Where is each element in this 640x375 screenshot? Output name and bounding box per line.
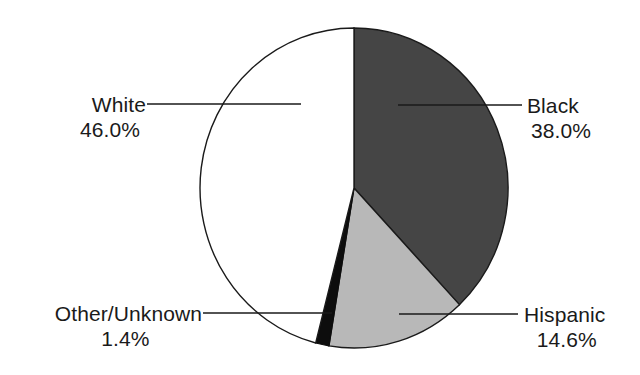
slice-label-other-unknown-category: Other/Unknown (55, 301, 202, 326)
slice-label-hispanic-category: Hispanic (524, 302, 605, 327)
pie-chart: White 46.0% Black 38.0% Other/Unknown 1.… (0, 0, 640, 375)
slice-label-black: Black 38.0% (527, 93, 591, 143)
slice-label-white-category: White (80, 92, 146, 117)
slice-label-black-percent: 38.0% (527, 118, 591, 143)
slice-label-other-unknown: Other/Unknown 1.4% (55, 301, 202, 351)
slice-label-hispanic: Hispanic 14.6% (524, 302, 605, 352)
slice-label-black-category: Black (527, 93, 591, 118)
slice-label-hispanic-percent: 14.6% (524, 327, 605, 352)
slice-label-white-percent: 46.0% (80, 117, 146, 142)
slice-label-white: White 46.0% (80, 92, 146, 142)
slice-label-other-unknown-percent: 1.4% (55, 326, 202, 351)
